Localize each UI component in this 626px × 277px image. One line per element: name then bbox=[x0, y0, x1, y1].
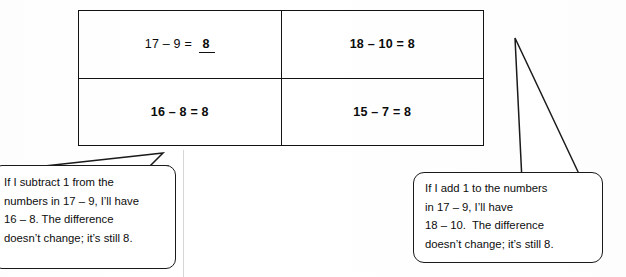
callout-line: 16 – 8. The difference bbox=[4, 210, 167, 229]
table-cell-18-minus-10[interactable]: 18 – 10 = 8 bbox=[281, 11, 484, 79]
callout-line: numbers in 17 – 9, I’ll have bbox=[4, 192, 167, 211]
table-row: 16 – 8 = 8 15 – 7 = 8 bbox=[79, 78, 484, 146]
callout-line: doesn’t change; it’s still 8. bbox=[425, 235, 596, 254]
table-cell-15-minus-7[interactable]: 15 – 7 = 8 bbox=[281, 78, 484, 146]
equation-text: 16 – 8 = 8 bbox=[151, 105, 209, 119]
callout-line: If I add 1 to the numbers bbox=[425, 179, 596, 198]
callout-line: If I subtract 1 from the bbox=[4, 173, 167, 192]
table-cell-17-minus-9[interactable]: 17 – 9 = 8 bbox=[79, 11, 282, 79]
equation-prompt: 17 – 9 = bbox=[145, 37, 196, 51]
scan-artifact-line bbox=[183, 150, 184, 277]
callout-line: doesn’t change; it’s still 8. bbox=[4, 229, 167, 248]
equation-text: 15 – 7 = 8 bbox=[353, 105, 411, 119]
table-row: 17 – 9 = 8 18 – 10 = 8 bbox=[79, 11, 484, 79]
callout-left-subtract[interactable]: If I subtract 1 from the numbers in 17 –… bbox=[0, 165, 176, 269]
callout-line: in 17 – 9, I’ll have bbox=[425, 198, 596, 217]
equation-answer-blank[interactable]: 8 bbox=[199, 37, 215, 53]
equation-table: 17 – 9 = 8 18 – 10 = 8 16 – 8 = 8 15 – 7… bbox=[78, 10, 484, 146]
callout-line: 18 – 10. The difference bbox=[425, 216, 596, 235]
worksheet-page: 17 – 9 = 8 18 – 10 = 8 16 – 8 = 8 15 – 7… bbox=[0, 0, 626, 277]
table-cell-16-minus-8[interactable]: 16 – 8 = 8 bbox=[79, 78, 282, 146]
equation-text: 18 – 10 = 8 bbox=[350, 37, 415, 51]
right-callout-tail bbox=[470, 26, 610, 186]
callout-right-add[interactable]: If I add 1 to the numbers in 17 – 9, I’l… bbox=[413, 172, 603, 263]
